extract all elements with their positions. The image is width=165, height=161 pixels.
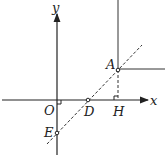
point-e [55, 131, 59, 135]
label-e: E [43, 125, 54, 140]
dashed-line-eda [47, 45, 142, 144]
label-y-axis: y [51, 0, 60, 15]
label-h: H [112, 104, 125, 119]
point-a [116, 68, 120, 72]
label-x-axis: x [150, 93, 158, 108]
label-a: A [105, 57, 115, 72]
label-origin: O [44, 103, 55, 118]
label-d: D [83, 104, 95, 119]
geometry-diagram: y x O A D H E [0, 0, 165, 161]
point-d [86, 98, 90, 102]
